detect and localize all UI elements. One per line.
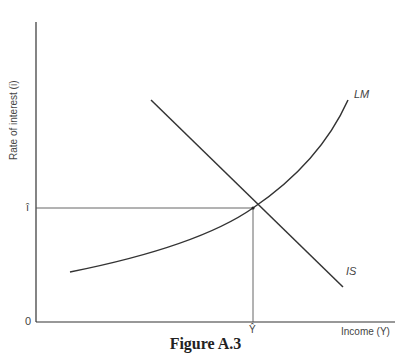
diagram-canvas	[0, 0, 411, 363]
lm-curve	[70, 100, 348, 272]
y-axis-label: Rate of interest (i)	[8, 81, 19, 160]
origin-label: 0	[25, 315, 31, 327]
is-lm-diagram: Rate of interest (i) î 0 Ŷ Income (Y) LM…	[0, 0, 411, 363]
is-curve-label: IS	[346, 265, 356, 277]
equilibrium-interest-label: î	[26, 201, 29, 213]
equilibrium-point	[251, 206, 254, 209]
equilibrium-income-label: Ŷ	[249, 324, 256, 335]
figure-caption: Figure A.3	[0, 335, 411, 353]
lm-curve-label: LM	[354, 88, 369, 100]
is-curve	[151, 100, 343, 287]
